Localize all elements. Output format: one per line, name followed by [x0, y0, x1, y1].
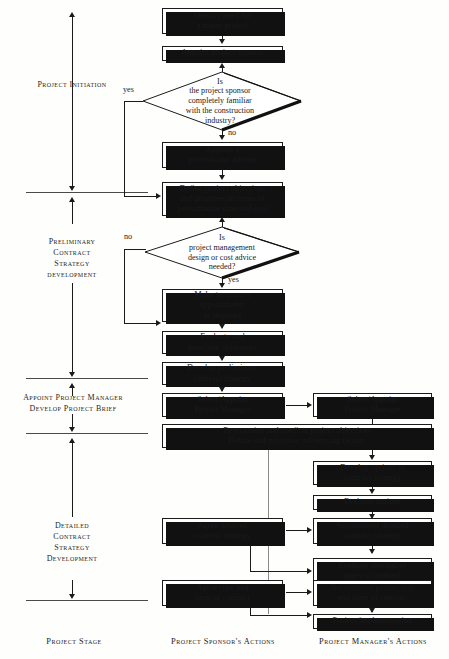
node-line: as required	[194, 311, 250, 321]
node-re-examine[interactable]: Re-examine and confirm project objective…	[162, 424, 432, 448]
arrow-identify-to-sponsor	[219, 39, 225, 44]
conn-agreedetailed-drop	[250, 544, 251, 571]
node-line: appointments	[194, 300, 250, 310]
arrow-yes1-into-objectives	[156, 193, 161, 199]
arrow-partnership-to-implementation	[369, 608, 375, 613]
arrow-recommend-to-alternative	[369, 549, 375, 554]
node-select-appoint-pm-manager[interactable]: Select/Appoint Project Manager	[313, 393, 432, 417]
node-identify-need[interactable]: Identify need for a major project	[162, 8, 283, 34]
column-header-manager-actions: Project Manager's Actions	[302, 637, 444, 646]
node-recommend-detailed[interactable]: Recommend detailed contract strategy	[313, 518, 432, 544]
node-appoint-sponsor[interactable]: Appoint project sponsor	[162, 46, 283, 61]
node-line: Agree detailed	[194, 521, 251, 531]
node-line: Develop preliminary	[187, 363, 258, 373]
conn-sponsor-pm-to-manager-pm	[286, 405, 309, 406]
column-header-project-stage: Project Stage	[8, 637, 140, 646]
node-line: Agree type and	[195, 583, 251, 593]
column-header-text: Project Stage	[46, 637, 101, 646]
node-develop-options[interactable]: Develop options to contract strategy	[313, 461, 432, 485]
node-line: Select/Appoint	[344, 395, 401, 405]
arrow-agreedetailed-to-recommend	[307, 527, 312, 533]
arrow-options-to-evaluate	[369, 489, 375, 494]
stage-axis-arrow-up-1	[69, 12, 75, 17]
stage-label-line: Develop Project Brief	[2, 403, 144, 414]
branch-label-no-2: no	[124, 232, 132, 241]
arrow-evaluate-to-preliminary	[219, 356, 225, 361]
arrow-agreedetailed-to-alternative	[307, 568, 312, 574]
node-evaluate-options[interactable]: Evaluate options	[313, 495, 432, 510]
conn-agreedetailed-across	[250, 571, 309, 572]
stage-label-line: Strategy	[8, 542, 136, 553]
node-project-implementation[interactable]: Project implementation	[313, 614, 432, 629]
branch-text: no	[124, 232, 132, 241]
stage-label-detailed: Detailed Contract Strategy Development	[8, 520, 136, 564]
node-line: Identify need for	[194, 11, 251, 21]
node-line: performance time and cost	[177, 204, 268, 214]
node-temporary-appointments[interactable]: Make temporary appointments as required	[162, 289, 283, 322]
stage-axis-line-4a	[72, 443, 73, 517]
node-line: a major project	[194, 21, 251, 31]
node-line: Evaluate alternative	[338, 561, 406, 571]
node-line: Evaluate options	[344, 497, 401, 507]
arrow-no2-into-evaluate	[156, 320, 161, 326]
node-line: Re-examine and confirm project objective…	[223, 426, 370, 436]
node-line: and priorities in terms of	[177, 194, 268, 204]
stage-label-line: Contract	[8, 531, 136, 542]
node-recommend-partnership[interactable]: Recommend partnership and form of contra…	[313, 580, 432, 606]
conn-yes1-h2	[124, 196, 156, 197]
node-line: Recommend detailed	[336, 521, 408, 531]
node-line: and form of contract	[331, 593, 414, 603]
stage-label-initiation: Project Initiation	[8, 79, 136, 90]
node-agree-type-form[interactable]: Agree type and form of contract	[162, 580, 283, 606]
arrow-agreetype-to-implementation	[307, 612, 312, 618]
node-line: Project Manager	[344, 405, 401, 415]
stage-label-line: Appoint Project Manager	[2, 392, 144, 403]
stage-axis-arrow-up-2	[69, 197, 75, 202]
stage-axis-line-2a	[72, 202, 73, 224]
branch-label-no-1: no	[228, 128, 236, 137]
stage-label-line: Project Initiation	[8, 79, 136, 90]
node-select-appoint-pm-sponsor[interactable]: Select/Appoint Project Manager	[162, 393, 283, 417]
stage-label-preliminary: Preliminary Contract Strategy developmen…	[8, 236, 136, 280]
node-define-objectives[interactable]: Define project objectives and priorities…	[162, 182, 283, 216]
conn-agreetype-across	[250, 615, 309, 616]
stage-axis-arrow-down-4	[69, 594, 75, 599]
arrow-no1-down	[219, 135, 225, 140]
conn-yes1-v	[124, 101, 125, 196]
arrow-preliminary-to-selectpm	[219, 387, 225, 392]
stage-label-line: Detailed	[8, 520, 136, 531]
node-line: professional adviser	[188, 155, 257, 165]
branch-text: no	[228, 128, 236, 137]
node-line: Select/Appoint	[194, 395, 251, 405]
decision-advice-needed[interactable]: Is project management design or cost adv…	[142, 225, 302, 280]
stage-axis-arrow-up-4	[69, 438, 75, 443]
branch-label-yes-1: yes	[123, 85, 134, 94]
node-appoint-adviser[interactable]: Appoint a professional adviser	[162, 142, 283, 168]
node-line: Evaluate and	[189, 332, 257, 342]
node-line: contract strategy	[336, 531, 408, 541]
stage-axis-arrow-down-1	[69, 186, 75, 191]
node-line: Recommend partnership	[331, 583, 414, 593]
node-agree-detailed[interactable]: Agree detailed contract strategy	[162, 518, 283, 544]
stage-divider-2	[26, 378, 148, 379]
flowchart-canvas: Project Initiation Preliminary Contract …	[0, 0, 449, 659]
stage-label-line: Preliminary	[8, 236, 136, 247]
stage-label-line: development	[8, 269, 136, 280]
node-line: Define project objectives	[177, 184, 268, 194]
arrow-adviser-to-objectives	[219, 175, 225, 180]
stage-divider-3	[26, 433, 148, 434]
arrow-yes2-down	[219, 283, 225, 288]
stage-axis-arrow-up-3	[69, 383, 75, 388]
stage-label-line: Strategy	[8, 258, 136, 269]
arrow-reexamine-to-options	[369, 455, 375, 460]
stage-label-appoint: Appoint Project Manager Develop Project …	[2, 392, 144, 414]
node-line: contract strategy	[194, 531, 251, 541]
node-line: contract strategy	[340, 473, 405, 483]
node-evaluate-prioritise[interactable]: Evaluate and prioritise objectives	[162, 331, 283, 354]
node-line: Project Manager	[194, 405, 251, 415]
stage-label-line: Development	[8, 553, 136, 564]
node-develop-preliminary[interactable]: Develop preliminary contract strategy	[162, 362, 283, 385]
arrow-diamond1-to-sponsor	[219, 63, 225, 68]
decision-sponsor-familiar[interactable]: Is the project sponsor completely famili…	[138, 70, 304, 132]
arrow-agreetype-to-partnership	[307, 589, 312, 595]
